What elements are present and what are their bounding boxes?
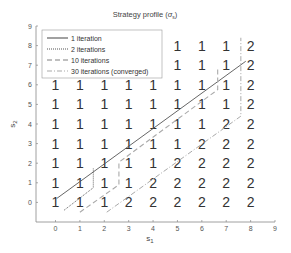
grid-cell-label: 2 [247, 194, 255, 210]
x-tick-label: 0 [54, 225, 58, 232]
grid-cell-label: 1 [125, 77, 133, 93]
grid-cell-label: 2 [174, 194, 182, 210]
y-tick-label: 7 [28, 62, 32, 69]
y-tick-label: 8 [28, 42, 32, 49]
y-tick-label: 0 [28, 199, 32, 206]
grid-cell-label: 2 [247, 38, 255, 54]
grid-cell-label: 1 [174, 96, 182, 112]
grid-cell-label: 2 [198, 194, 206, 210]
grid-cell-label: 1 [76, 175, 84, 191]
grid-cell-label: 1 [76, 77, 84, 93]
y-tick-label: 3 [28, 140, 32, 147]
grid-cell-label: 1 [149, 96, 157, 112]
x-tick-label: 9 [273, 225, 277, 232]
grid-cell-label: 1 [198, 116, 206, 132]
grid-cell-label: 1 [174, 57, 182, 73]
legend-label: 2 iterations [71, 46, 106, 53]
grid-cell-label: 1 [100, 116, 108, 132]
grid-cell-label: 1 [149, 155, 157, 171]
legend-label: 1 iteration [71, 35, 102, 42]
grid-cell-label: 1 [174, 38, 182, 54]
grid-cell-label: 1 [222, 77, 230, 93]
legend: 1 iteration2 iterations10 iterations30 i… [42, 30, 162, 78]
grid-cell-label: 2 [247, 136, 255, 152]
grid-cell-label: 1 [100, 175, 108, 191]
grid-cell-label: 1 [125, 96, 133, 112]
grid-cell-label: 1 [198, 38, 206, 54]
grid-cell-label: 1 [174, 136, 182, 152]
y-ticks: 0123456789 [28, 23, 38, 206]
y-tick-label: 5 [28, 101, 32, 108]
grid-cell-label: 1 [52, 155, 60, 171]
grid-cell-label: 1 [174, 77, 182, 93]
grid-cell-label: 1 [125, 155, 133, 171]
grid-cell-label: 1 [52, 96, 60, 112]
x-tick-label: 1 [78, 225, 82, 232]
y-tick-label: 2 [28, 160, 32, 167]
grid-cell-label: 1 [76, 116, 84, 132]
grid-cell-label: 1 [222, 96, 230, 112]
grid-cell-label: 1 [198, 77, 206, 93]
grid-cell-label: 2 [149, 194, 157, 210]
grid-cell-label: 2 [247, 155, 255, 171]
grid-cell-label: 2 [247, 116, 255, 132]
grid-cell-label: 1 [100, 136, 108, 152]
grid-cell-label: 1 [52, 136, 60, 152]
grid-cell-label: 1 [76, 155, 84, 171]
grid-cell-label: 2 [247, 96, 255, 112]
y-axis-label: s2 [8, 120, 18, 128]
grid-cell-label: 1 [222, 38, 230, 54]
x-tick-label: 5 [175, 225, 179, 232]
grid-cell-label: 2 [125, 194, 133, 210]
grid-cell-label: 2 [222, 136, 230, 152]
grid-cell-label: 1 [100, 96, 108, 112]
grid-cell-label: 2 [222, 155, 230, 171]
grid-cell-label: 1 [198, 57, 206, 73]
grid-cell-label: 2 [247, 77, 255, 93]
grid-cell-label: 2 [174, 175, 182, 191]
grid-cell-label: 1 [100, 77, 108, 93]
grid-cell-label: 1 [52, 116, 60, 132]
grid-cell-label: 1 [174, 116, 182, 132]
y-tick-label: 4 [28, 121, 32, 128]
grid-cell-label: 1 [100, 155, 108, 171]
grid-cell-label: 2 [247, 175, 255, 191]
grid-cell-label: 1 [52, 175, 60, 191]
grid-cell-label: 2 [222, 194, 230, 210]
chart-title: Strategy profile (σs) [113, 10, 178, 20]
legend-label: 10 iterations [71, 57, 110, 64]
y-tick-label: 6 [28, 81, 32, 88]
grid-cell-label: 2 [222, 175, 230, 191]
grid-cell-label: 1 [76, 136, 84, 152]
grid-cell-label: 2 [198, 155, 206, 171]
grid-cell-label: 1 [222, 57, 230, 73]
x-tick-label: 6 [200, 225, 204, 232]
grid-cell-label: 1 [149, 116, 157, 132]
grid-cell-label: 1 [76, 96, 84, 112]
grid-cell-label: 1 [149, 136, 157, 152]
x-tick-label: 3 [127, 225, 131, 232]
grid-cell-label: 1 [76, 194, 84, 210]
legend-label: 30 iterations (converged) [71, 68, 148, 76]
grid-cell-label: 1 [125, 175, 133, 191]
y-tick-label: 1 [28, 179, 32, 186]
x-tick-label: 7 [224, 225, 228, 232]
x-tick-label: 8 [249, 225, 253, 232]
grid-cell-label: 2 [247, 57, 255, 73]
x-tick-label: 2 [102, 225, 106, 232]
grid-cell-label: 1 [149, 77, 157, 93]
grid-cell-label: 1 [125, 116, 133, 132]
x-tick-label: 4 [151, 225, 155, 232]
strategy-profile-chart: Strategy profile (σs) 0123456789 0123456… [0, 0, 291, 253]
x-axis-label: s1 [146, 234, 154, 244]
y-tick-label: 9 [28, 23, 32, 30]
grid-cell-label: 2 [198, 175, 206, 191]
grid-cell-label: 1 [52, 77, 60, 93]
